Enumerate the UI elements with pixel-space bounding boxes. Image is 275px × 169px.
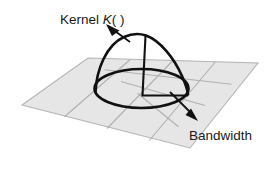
kernel-label: Kernel K( ) xyxy=(60,12,125,27)
kernel-label-group: Kernel K( ) xyxy=(60,12,130,42)
kernel-label-suffix: ( ) xyxy=(112,12,125,27)
kernel-bandwidth-figure: Kernel K( ) Bandwidth xyxy=(0,0,275,169)
bandwidth-label: Bandwidth xyxy=(189,128,252,143)
kernel-label-prefix: Kernel xyxy=(60,12,103,27)
diagram-canvas: Kernel K( ) Bandwidth xyxy=(0,0,275,169)
